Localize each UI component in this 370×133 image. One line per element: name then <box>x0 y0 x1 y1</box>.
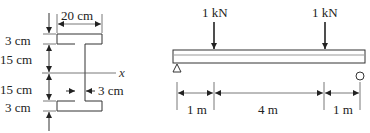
lower-web-height-label: 15 cm <box>0 82 32 97</box>
cross-section: x 20 cm 3 cm 15 cm 15 cm 3 cm <box>0 8 125 131</box>
point-load-2: 1 kN <box>312 5 338 49</box>
span-1-label: 1 m <box>187 102 207 117</box>
load-1-label: 1 kN <box>202 5 228 20</box>
bottom-flange-thickness-label: 3 cm <box>5 100 31 115</box>
neutral-axis-label: x <box>118 65 125 80</box>
span-dimensions: 1 m 4 m 1 m <box>177 82 360 117</box>
flange-width-dimension: 20 cm <box>57 8 102 33</box>
beam-diagram: 1 kN 1 kN 1 m 4 m 1 m <box>173 5 365 117</box>
i-section-outline <box>57 34 102 111</box>
triangle-support-icon <box>173 64 181 72</box>
height-dimension-chain: 3 cm 15 cm 15 cm 3 cm <box>0 13 56 131</box>
point-load-1: 1 kN <box>202 5 228 49</box>
circle-roller-icon <box>356 72 364 80</box>
web-thickness-label: 3 cm <box>98 83 124 98</box>
load-2-label: 1 kN <box>312 5 338 20</box>
flange-width-label: 20 cm <box>61 8 93 23</box>
diagram-canvas: x 20 cm 3 cm 15 cm 15 cm 3 cm <box>0 0 370 133</box>
top-flange-thickness-label: 3 cm <box>5 33 31 48</box>
span-3-label: 1 m <box>333 102 353 117</box>
span-2-label: 4 m <box>258 102 278 117</box>
upper-web-height-label: 15 cm <box>0 52 32 67</box>
beam-body <box>173 50 365 63</box>
web-thickness-dimension: 3 cm <box>66 83 124 98</box>
